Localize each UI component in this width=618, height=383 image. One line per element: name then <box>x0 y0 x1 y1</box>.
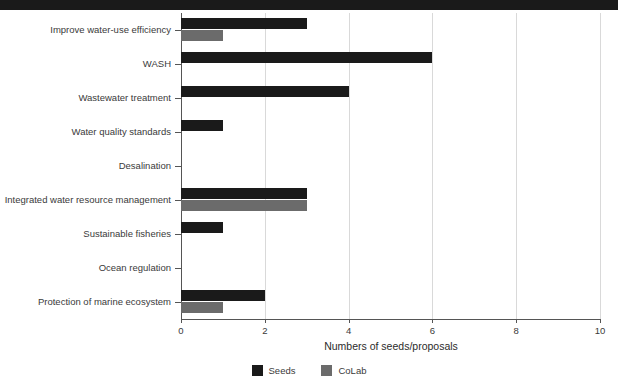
bar-seeds <box>181 120 223 131</box>
bar-seeds <box>181 188 307 199</box>
y-axis-label: Integrated water resource management <box>0 194 171 205</box>
x-axis-tick-mark <box>265 319 266 323</box>
plot-area <box>181 13 600 319</box>
bar-row <box>181 251 600 285</box>
x-axis-tick-mark <box>181 319 182 323</box>
bar-seeds <box>181 86 349 97</box>
horizontal-bar-chart: Improve water-use efficiencyWASHWastewat… <box>0 0 618 383</box>
bar-row <box>181 47 600 81</box>
bar-row <box>181 149 600 183</box>
legend-swatch-icon <box>252 365 263 376</box>
bar-row <box>181 115 600 149</box>
bar-row <box>181 13 600 47</box>
x-axis-tick-label: 2 <box>250 325 280 336</box>
legend-swatch-icon <box>321 365 332 376</box>
y-axis-label: Wastewater treatment <box>0 92 171 103</box>
bar-colab <box>181 200 307 211</box>
x-axis-tick-mark <box>432 319 433 323</box>
y-axis-label: Improve water-use efficiency <box>0 24 171 35</box>
gridline <box>600 13 601 319</box>
y-axis-label: Water quality standards <box>0 126 171 137</box>
bar-colab <box>181 30 223 41</box>
x-axis-tick-mark <box>600 319 601 323</box>
x-axis-tick-label: 10 <box>585 325 615 336</box>
chart-legend: SeedsCoLab <box>0 365 618 376</box>
legend-label: Seeds <box>269 365 296 376</box>
x-axis-tick-mark <box>349 319 350 323</box>
bar-row <box>181 217 600 251</box>
x-axis-tick-mark <box>516 319 517 323</box>
legend-item[interactable]: CoLab <box>321 365 366 376</box>
y-axis-label: Ocean regulation <box>0 262 171 273</box>
x-axis-tick-label: 0 <box>166 325 196 336</box>
x-axis-tick-label: 6 <box>417 325 447 336</box>
x-axis-tick-label: 4 <box>334 325 364 336</box>
bar-seeds <box>181 52 432 63</box>
x-axis-title: Numbers of seeds/proposals <box>181 340 601 352</box>
bar-row <box>181 81 600 115</box>
bar-colab <box>181 302 223 313</box>
bar-row <box>181 285 600 319</box>
bar-seeds <box>181 290 265 301</box>
bar-seeds <box>181 18 307 29</box>
y-axis-label: Desalination <box>0 160 171 171</box>
y-axis-label: Sustainable fisheries <box>0 228 171 239</box>
x-axis-line <box>181 319 601 320</box>
legend-label: CoLab <box>338 365 366 376</box>
bar-seeds <box>181 222 223 233</box>
x-axis-tick-label: 8 <box>501 325 531 336</box>
legend-item[interactable]: Seeds <box>252 365 296 376</box>
bar-row <box>181 183 600 217</box>
y-axis-label: Protection of marine ecosystem <box>0 296 171 307</box>
y-axis-label: WASH <box>0 58 171 69</box>
